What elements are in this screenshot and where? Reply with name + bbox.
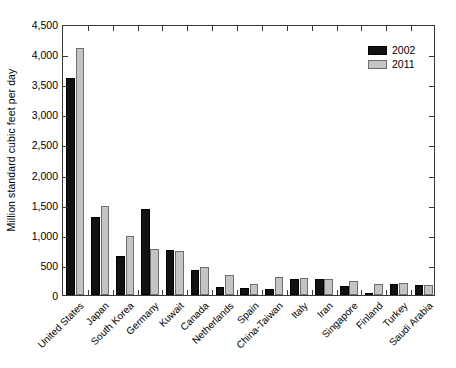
bar-group bbox=[113, 26, 138, 295]
black-swatch bbox=[368, 46, 387, 55]
bar-2002-germany bbox=[141, 209, 150, 295]
x-axis-tick-mark bbox=[386, 290, 387, 295]
y-axis-tick-label: 2,000 bbox=[32, 171, 58, 181]
y-axis-tick-mark bbox=[429, 267, 434, 268]
y-axis-tick-label: 0 bbox=[52, 291, 58, 301]
x-axis-tick-mark bbox=[386, 26, 387, 31]
x-axis-tick-mark bbox=[361, 290, 362, 295]
bar-2011-south-korea bbox=[126, 236, 135, 295]
bar-2002-iran bbox=[315, 279, 324, 295]
bar-2002-spain bbox=[240, 288, 249, 295]
y-axis-tick-mark bbox=[429, 86, 434, 87]
y-axis-tick-mark bbox=[429, 237, 434, 238]
x-axis-tick-mark bbox=[162, 26, 163, 31]
x-axis-tick-mark bbox=[88, 290, 89, 295]
bar-2011-singapore bbox=[349, 281, 358, 295]
bar-2011-finland bbox=[374, 284, 383, 295]
bar-2011-saudi-arabia bbox=[424, 285, 433, 295]
x-axis-tick-mark bbox=[187, 26, 188, 31]
y-axis-tick-mark bbox=[63, 116, 68, 117]
bar-group bbox=[63, 26, 88, 295]
bar-2002-canada bbox=[191, 270, 200, 295]
bar-2011-spain bbox=[250, 284, 259, 295]
x-axis-tick-mark bbox=[262, 290, 263, 295]
y-axis-tick-mark bbox=[429, 116, 434, 117]
x-axis-tick-label: Finland bbox=[354, 300, 385, 331]
bar-group bbox=[287, 26, 312, 295]
x-axis-tick-label: Iran bbox=[315, 300, 335, 320]
bar-2011-iran bbox=[324, 279, 333, 295]
bar-group bbox=[138, 26, 163, 295]
bar-2011-germany bbox=[150, 249, 159, 295]
x-axis-tick-mark bbox=[138, 26, 139, 31]
y-axis-tick-label: 4,000 bbox=[32, 50, 58, 60]
bar-2011-united-states bbox=[76, 48, 85, 296]
y-axis-tick-mark bbox=[63, 177, 68, 178]
bar-group bbox=[162, 26, 187, 295]
bar-2002-south-korea bbox=[116, 256, 125, 295]
bar-group bbox=[212, 26, 237, 295]
bar-2002-turkey bbox=[390, 284, 399, 295]
bar-group bbox=[237, 26, 262, 295]
bar-2011-kuwait bbox=[175, 251, 184, 295]
x-axis-tick-mark bbox=[113, 290, 114, 295]
bar-2002-kuwait bbox=[166, 250, 175, 295]
y-axis-tick-mark bbox=[63, 267, 68, 268]
y-axis-tick-mark bbox=[429, 146, 434, 147]
bar-2011-japan bbox=[101, 206, 110, 295]
y-axis-tick-label: 3,000 bbox=[32, 110, 58, 120]
y-axis-tick-mark bbox=[429, 177, 434, 178]
bar-2011-netherlands bbox=[225, 275, 234, 295]
x-axis-tick-mark bbox=[162, 290, 163, 295]
bar-group bbox=[187, 26, 212, 295]
bar-2011-china-taiwan bbox=[275, 277, 284, 295]
y-axis-tick-label: 4,500 bbox=[32, 20, 58, 30]
x-axis-tick-mark bbox=[237, 290, 238, 295]
y-axis-tick-mark bbox=[429, 207, 434, 208]
x-axis-tick-mark bbox=[237, 26, 238, 31]
y-axis-tick-label: 2,500 bbox=[32, 140, 58, 150]
y-axis-tick-mark bbox=[429, 56, 434, 57]
legend-label: 2002 bbox=[392, 44, 415, 57]
x-axis-tick-mark bbox=[411, 26, 412, 31]
y-axis-tick-mark bbox=[63, 86, 68, 87]
y-axis-tick-label: 1,500 bbox=[32, 201, 58, 211]
legend-label: 2011 bbox=[392, 58, 415, 71]
bar-2002-netherlands bbox=[216, 287, 225, 295]
y-axis-tick-mark bbox=[63, 237, 68, 238]
legend-item: 2002 bbox=[368, 44, 415, 57]
bar-2002-united-states bbox=[66, 78, 75, 295]
bar-group bbox=[262, 26, 287, 295]
x-axis-tick-labels: United StatesJapanSouth KoreaGermanyKuwa… bbox=[62, 296, 435, 368]
chart-legend: 20022011 bbox=[368, 44, 415, 72]
bar-group bbox=[312, 26, 337, 295]
bar-2002-china-taiwan bbox=[265, 289, 274, 295]
x-axis-tick-mark bbox=[138, 290, 139, 295]
y-axis-tick-label: 3,500 bbox=[32, 80, 58, 90]
x-axis-tick-mark bbox=[187, 290, 188, 295]
bar-2002-italy bbox=[290, 279, 299, 295]
bar-group bbox=[88, 26, 113, 295]
bar-2002-finland bbox=[365, 293, 374, 295]
y-axis-tick-mark bbox=[63, 56, 68, 57]
x-axis-tick-mark bbox=[411, 290, 412, 295]
x-axis-tick-mark bbox=[88, 26, 89, 31]
x-axis-tick-mark bbox=[312, 26, 313, 31]
x-axis-tick-label: Italy bbox=[289, 300, 310, 321]
x-axis-tick-mark bbox=[212, 26, 213, 31]
y-axis-tick-label: 500 bbox=[40, 261, 58, 271]
x-axis-tick-mark bbox=[113, 26, 114, 31]
bar-chart-figure: Million standard cubic feet per day 0500… bbox=[0, 0, 456, 368]
y-axis-tick-labels: 05001,0001,5002,0002,5003,0003,5004,0004… bbox=[14, 0, 58, 310]
y-axis-tick-mark bbox=[63, 146, 68, 147]
bar-2011-turkey bbox=[399, 283, 408, 295]
bar-2002-singapore bbox=[340, 286, 349, 295]
bar-group bbox=[337, 26, 362, 295]
legend-item: 2011 bbox=[368, 58, 415, 71]
x-axis-tick-mark bbox=[212, 290, 213, 295]
gray-swatch bbox=[368, 60, 387, 69]
bar-2002-saudi-arabia bbox=[415, 285, 424, 295]
x-axis-tick-mark bbox=[337, 290, 338, 295]
x-axis-tick-mark bbox=[312, 290, 313, 295]
y-axis-tick-mark bbox=[63, 207, 68, 208]
